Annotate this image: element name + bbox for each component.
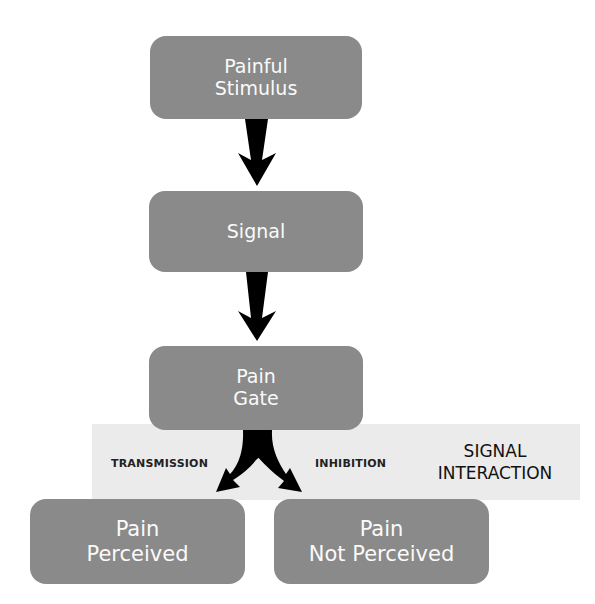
- arrows-layer: [0, 0, 595, 604]
- title-line: SIGNAL: [420, 440, 570, 462]
- transmission-label: TRANSMISSION: [111, 457, 208, 470]
- signal-interaction-title: SIGNAL INTERACTION: [420, 440, 570, 484]
- arrow-down-icon: [238, 119, 276, 186]
- arrow-down-icon: [238, 272, 276, 341]
- inhibition-label: INHIBITION: [315, 457, 386, 470]
- split-arrow-icon: [216, 430, 302, 492]
- title-line: INTERACTION: [420, 462, 570, 484]
